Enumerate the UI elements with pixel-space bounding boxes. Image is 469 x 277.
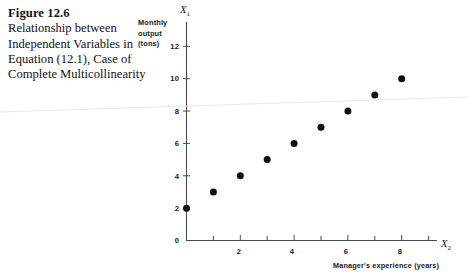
data-point-0 xyxy=(183,205,190,212)
x-axis-ticks xyxy=(213,235,428,241)
data-point-1 xyxy=(210,188,217,195)
data-point-7 xyxy=(371,91,378,98)
data-point-2 xyxy=(237,172,244,179)
data-point-series xyxy=(183,75,405,211)
scatter-plot: Monthly output (tons) X1 X2 Manager's ex… xyxy=(0,0,469,277)
data-point-5 xyxy=(318,124,325,131)
data-point-4 xyxy=(291,140,298,147)
data-point-8 xyxy=(398,75,405,82)
plot-canvas xyxy=(0,0,469,277)
plot-axes xyxy=(186,22,437,241)
data-point-6 xyxy=(344,108,351,115)
data-point-3 xyxy=(264,156,271,163)
